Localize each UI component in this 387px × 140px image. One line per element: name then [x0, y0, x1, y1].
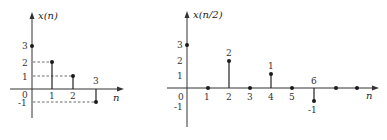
figure: x(n) n 3 2 1 0 -1 1 2 3 [0, 0, 387, 140]
y-axis-title: x(n) [38, 10, 58, 21]
x-tick-3: 3 [247, 92, 253, 102]
data-point-n0 [30, 44, 34, 48]
x-tick-1: 1 [204, 92, 210, 102]
data-point-n1 [50, 60, 54, 64]
x-axis-arrow-icon [117, 87, 124, 92]
y-tick-3: 3 [177, 40, 183, 50]
data-point-n2 [227, 59, 231, 63]
data-point-n3 [248, 86, 252, 90]
y-axis-arrow-icon [185, 11, 190, 18]
y-tick-1: 1 [177, 71, 183, 81]
y-tick-neg1: -1 [174, 102, 183, 112]
x-tick-1: 1 [49, 91, 55, 101]
x-tick-6: 6 [311, 76, 317, 86]
figure-svg: x(n) n 3 2 1 0 -1 1 2 3 [0, 0, 387, 140]
data-point-n1 [206, 86, 210, 90]
x-tick-4: 4 [268, 92, 274, 102]
y-axis-arrow-icon [30, 12, 35, 19]
y-tick-neg1: -1 [18, 98, 27, 108]
data-point-n8 [355, 86, 359, 90]
y-tick-2: 2 [22, 58, 28, 68]
y-axis-title: x(n/2) [193, 9, 223, 20]
x-axis-arrow-icon [372, 86, 379, 91]
value-label-n4: 1 [268, 61, 274, 71]
data-point-n4 [269, 72, 273, 76]
x-tick-3: 3 [93, 76, 99, 86]
plot-x-n-half: x(n/2) n 3 2 1 0 -1 1 2 3 4 5 6 2 1 -1 [167, 9, 379, 127]
data-point-n3 [94, 100, 98, 104]
plot-x-n: x(n) n 3 2 1 0 -1 1 2 3 [10, 10, 124, 118]
y-tick-1: 1 [22, 72, 28, 82]
x-axis-title: n [366, 90, 372, 101]
data-point-n7 [334, 86, 338, 90]
data-point-n6 [312, 99, 316, 103]
x-axis-title: n [113, 92, 119, 103]
data-point-n0 [185, 43, 189, 47]
data-point-n2 [71, 74, 75, 78]
y-tick-3: 3 [22, 41, 28, 51]
x-tick-5: 5 [289, 92, 295, 102]
x-tick-2: 2 [226, 92, 232, 102]
data-point-n5 [290, 86, 294, 90]
y-tick-2: 2 [177, 56, 183, 66]
origin-label: 0 [178, 92, 184, 102]
x-tick-2: 2 [70, 91, 76, 101]
value-label-n6: -1 [308, 105, 317, 115]
value-label-n2: 2 [226, 48, 232, 58]
